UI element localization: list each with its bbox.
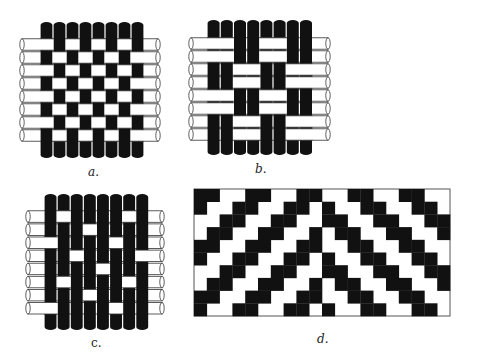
draft-cell — [360, 189, 373, 202]
draft-cell — [207, 291, 220, 304]
draft-cell — [412, 202, 425, 215]
weft-over-cell — [220, 90, 234, 101]
weft-over-cell — [131, 52, 145, 63]
draft-cell — [258, 189, 271, 202]
draft-cell — [232, 265, 245, 278]
draft-cell — [220, 227, 233, 240]
weft-over-cell — [92, 91, 106, 102]
weft-over-cell — [246, 64, 260, 75]
draft-cell — [386, 214, 399, 227]
draft-cell — [284, 214, 297, 227]
draft-cell — [412, 253, 425, 266]
draft-cell — [322, 214, 335, 227]
weft-over-cell — [40, 91, 54, 102]
weft-over-cell — [53, 52, 67, 63]
draft-cell — [348, 189, 361, 202]
weft-over-cell — [260, 103, 274, 114]
weft-over-cell — [246, 77, 260, 88]
weft-over-cell — [233, 64, 247, 75]
weft-over-cell — [260, 51, 274, 62]
draft-cell — [399, 227, 412, 240]
draft-cell — [360, 202, 373, 215]
draft-cell — [296, 189, 309, 202]
weft-over-cell — [118, 39, 132, 50]
draft-cell — [220, 214, 233, 227]
weft-over-cell — [286, 116, 300, 127]
panel-b-label: b. — [255, 163, 267, 175]
draft-cell — [207, 278, 220, 291]
draft-cell — [322, 253, 335, 266]
draft-cell — [424, 265, 437, 278]
weft-over-cell — [92, 39, 106, 50]
panel-b-basket-weave — [189, 20, 330, 155]
draft-cell — [386, 278, 399, 291]
draft-cell — [194, 303, 207, 316]
draft-cell — [335, 278, 348, 291]
draft-cell — [424, 303, 437, 316]
draft-cell — [386, 265, 399, 278]
panel-d-label: d. — [317, 333, 329, 345]
weft-over-cell — [246, 129, 260, 140]
draft-cell — [220, 265, 233, 278]
weft-over-cell — [286, 77, 300, 88]
draft-cell — [245, 202, 258, 215]
weft-over-cell — [40, 65, 54, 76]
draft-cell — [309, 240, 322, 253]
draft-cell — [207, 240, 220, 253]
weft-over-cell — [233, 129, 247, 140]
weave-diagram-figure — [0, 0, 478, 360]
draft-cell — [245, 189, 258, 202]
draft-cell — [424, 202, 437, 215]
weft-over-cell — [299, 77, 313, 88]
weft-over-cell — [57, 276, 71, 288]
weft-over-cell — [233, 116, 247, 127]
draft-cell — [271, 227, 284, 240]
draft-cell — [322, 202, 335, 215]
weft-over-cell — [220, 51, 234, 62]
weft-over-cell — [135, 250, 149, 262]
weft-over-cell — [83, 289, 97, 301]
weft-over-cell — [70, 250, 84, 262]
draft-cell — [309, 278, 322, 291]
weft-over-cell — [207, 38, 221, 49]
draft-cell — [220, 278, 233, 291]
draft-cell — [207, 189, 220, 202]
weft-over-cell — [66, 91, 80, 102]
draft-cell — [245, 240, 258, 253]
weft-over-cell — [286, 129, 300, 140]
draft-cell — [335, 227, 348, 240]
draft-cell — [322, 265, 335, 278]
weft-over-cell — [299, 64, 313, 75]
weft-over-cell — [105, 78, 119, 89]
weft-over-cell — [44, 303, 58, 315]
weft-over-cell — [109, 237, 123, 249]
weft-over-cell — [53, 104, 67, 115]
draft-cell — [258, 240, 271, 253]
weft-over-cell — [122, 211, 136, 223]
draft-cell — [322, 303, 335, 316]
weft-over-cell — [122, 276, 136, 288]
draft-cell — [296, 202, 309, 215]
draft-cell — [412, 303, 425, 316]
draft-cell — [284, 202, 297, 215]
draft-cell — [437, 227, 450, 240]
draft-cell — [194, 189, 207, 202]
weft-over-cell — [44, 237, 58, 249]
draft-cell — [309, 227, 322, 240]
draft-cell — [232, 214, 245, 227]
weft-over-cell — [79, 104, 93, 115]
weft-over-cell — [131, 78, 145, 89]
weft-over-cell — [109, 303, 123, 315]
panel-a-label: a. — [88, 166, 99, 178]
draft-cell — [296, 291, 309, 304]
draft-cell — [271, 265, 284, 278]
draft-cell — [194, 202, 207, 215]
weft-over-cell — [273, 90, 287, 101]
weft-over-cell — [53, 130, 67, 141]
weft-over-cell — [105, 104, 119, 115]
weft-over-cell — [105, 52, 119, 63]
draft-cell — [232, 202, 245, 215]
weft-over-cell — [92, 65, 106, 76]
draft-cell — [360, 291, 373, 304]
weft-over-cell — [131, 104, 145, 115]
